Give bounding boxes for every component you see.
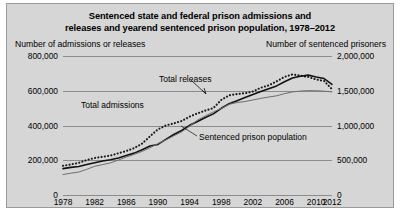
series-label-total-admissions: Total admissions xyxy=(81,100,144,110)
chart-figure: Sentenced state and federal prison admis… xyxy=(6,3,394,208)
left-axis-tick-label: 600,000 xyxy=(28,87,63,95)
x-axis-tick-label: 2012 xyxy=(323,197,342,207)
series-label-total-releases: Total releases xyxy=(159,74,211,84)
left-axis-header: Number of admissions or releases xyxy=(15,39,145,49)
chart-title: Sentenced state and federal prison admis… xyxy=(7,11,393,34)
plot-area: 0200,000400,000600,000800,000 0500,0001,… xyxy=(63,56,332,195)
gridline xyxy=(63,195,332,196)
x-axis-tick-label: 1998 xyxy=(212,197,231,207)
left-axis-tick-label: 200,000 xyxy=(28,156,63,164)
x-axis-tick-label: 1986 xyxy=(117,197,136,207)
left-axis-tick-label: 400,000 xyxy=(28,122,63,130)
x-axis-tick-label: 1982 xyxy=(85,197,104,207)
x-axis-tick-label: 1978 xyxy=(54,197,73,207)
x-axis-tick-label: 2006 xyxy=(275,197,294,207)
right-axis-tick-label: 1,500,000 xyxy=(332,87,374,95)
left-axis-tick-label: 800,000 xyxy=(28,52,63,60)
right-axis-tick-label: 500,000 xyxy=(332,156,367,164)
right-axis-header: Number of sentenced prisoners xyxy=(266,39,386,49)
right-axis-tick-label: 2,000,000 xyxy=(332,52,374,60)
x-axis-tick-label: 1990 xyxy=(149,197,168,207)
right-axis-tick-label: 1,000,000 xyxy=(332,122,374,130)
series-label-sentenced-prison-population: Sentenced prison population xyxy=(199,132,307,142)
x-axis-tick-label: 2002 xyxy=(244,197,263,207)
x-axis-tick-label: 1994 xyxy=(180,197,199,207)
chart-title-line-1: Sentenced state and federal prison admis… xyxy=(89,11,311,21)
chart-title-line-2: releases and yearend sentenced prison po… xyxy=(65,23,335,33)
